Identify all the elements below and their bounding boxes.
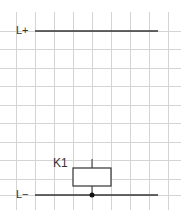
junction-dot: [90, 193, 95, 198]
diagram-canvas: L+ L− K1: [0, 0, 181, 210]
relay-coil-k1[interactable]: [73, 168, 111, 186]
component-label-k1: K1: [53, 157, 68, 169]
rail-label-l-minus: L−: [16, 189, 29, 200]
rail-label-l-plus: L+: [16, 25, 29, 36]
